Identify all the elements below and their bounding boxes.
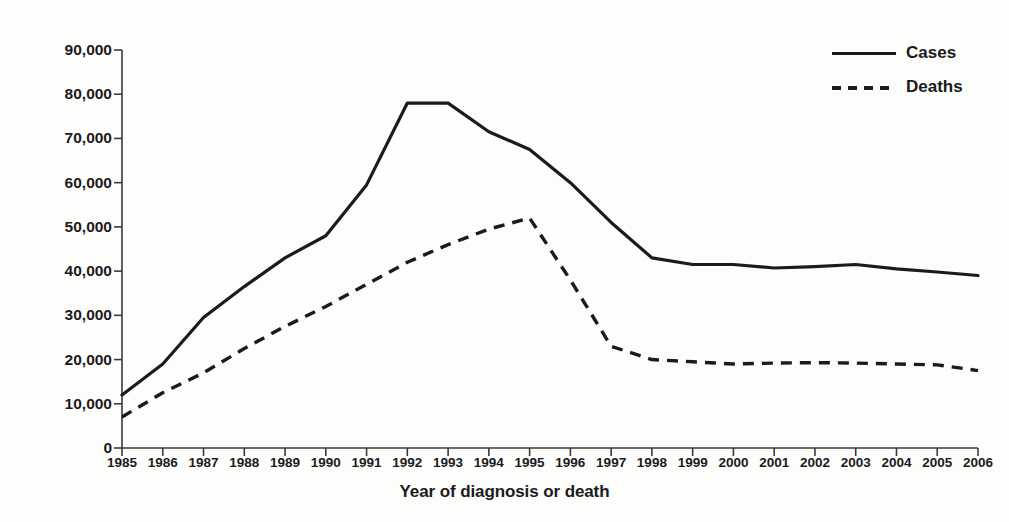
legend-item-cases: Cases xyxy=(828,36,998,70)
legend-label-deaths: Deaths xyxy=(906,77,963,97)
x-axis-tick-labels: 1985198619871988198919901991199219931994… xyxy=(0,455,1009,477)
y-axis-ticks xyxy=(114,50,122,448)
series-line-cases xyxy=(122,103,978,395)
legend-swatch-dashed-icon xyxy=(828,80,900,94)
series-line-deaths xyxy=(122,218,978,417)
legend-label-cases: Cases xyxy=(906,43,956,63)
chart-legend: Cases Deaths xyxy=(828,36,998,104)
x-axis-title: Year of diagnosis or death xyxy=(0,482,1009,502)
legend-swatch-solid-icon xyxy=(828,46,900,60)
axis-lines xyxy=(122,50,978,448)
chart-figure: Number of cases or deaths 010,00020,0003… xyxy=(0,0,1009,522)
legend-item-deaths: Deaths xyxy=(828,70,998,104)
x-axis-tick-label: 2006 xyxy=(950,455,1006,470)
